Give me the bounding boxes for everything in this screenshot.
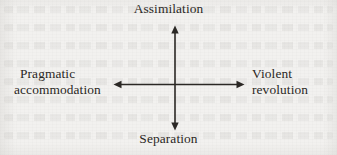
axis-label-bottom-separation: Separation bbox=[0, 131, 337, 147]
arrowhead-left-icon bbox=[114, 81, 122, 88]
acculturation-axes-diagram: Assimilation Separation Pragmatic accomm… bbox=[0, 0, 337, 155]
axis-label-left-pragmatic-accommodation: Pragmatic accommodation bbox=[0, 66, 113, 97]
axis-label-top-assimilation: Assimilation bbox=[0, 1, 337, 17]
axis-label-right-line-1: Violent bbox=[252, 66, 308, 82]
arrowhead-up-icon bbox=[171, 26, 178, 34]
arrowhead-right-icon bbox=[237, 81, 245, 88]
axis-label-right-violent-revolution: Violent revolution bbox=[252, 66, 308, 97]
arrowhead-down-icon bbox=[171, 123, 178, 131]
axis-label-left-line-2: accommodation bbox=[14, 82, 113, 98]
axis-label-left-line-1: Pragmatic bbox=[14, 66, 113, 82]
axis-label-bottom-text: Separation bbox=[139, 131, 197, 146]
axis-label-right-line-2: revolution bbox=[252, 82, 308, 98]
